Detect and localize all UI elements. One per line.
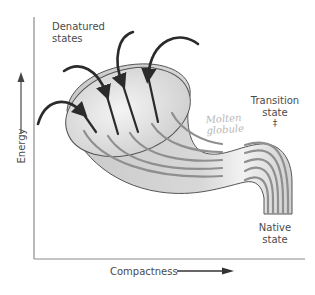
compactness-arrow-icon [177,268,234,275]
native-state-label: Native state [255,222,295,246]
molten-globule-label: Molten globule [205,112,244,137]
denatured-states-label: Denatured states [52,21,105,45]
diagram-canvas [0,0,315,295]
y-axis-label: Energy [16,116,28,176]
folding-funnel-diagram: Denatured states Transition state ‡ Molt… [0,0,315,295]
x-axis-label: Compactness [110,266,178,278]
funnel [54,52,292,214]
double-dagger-icon: ‡ [246,119,304,128]
transition-state-label: Transition state ‡ [246,95,304,128]
